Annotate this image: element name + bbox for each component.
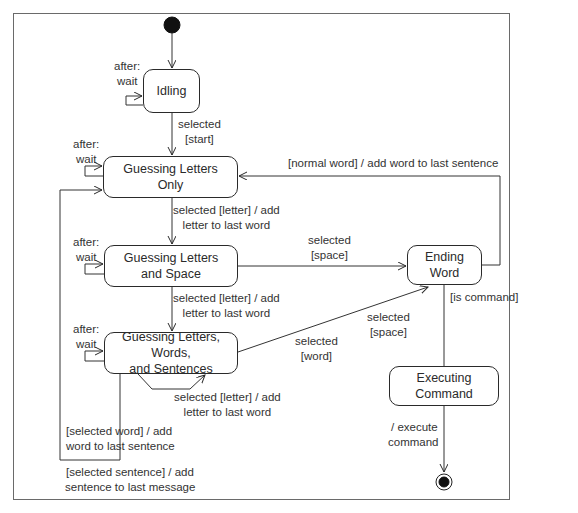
label-glws-to-ew-word: selected [word] [295,334,338,364]
state-guessing-letters-words-sentences: Guessing Letters, Words, and Sentences [104,332,238,374]
label-idle-wait: after: wait [114,59,140,89]
label-line: [space] [367,325,410,340]
final-node [436,474,452,490]
label-glws-to-glo-sentence: [selected sentence] / add sentence to la… [65,465,195,495]
label-line: selected [letter] / add [173,291,280,306]
label-ec-to-final: / execute command [388,420,439,450]
state-ending-word: Ending Word [407,245,482,285]
label-line: command [388,435,439,450]
label-line: selected [178,117,221,132]
state-idling: Idling [143,69,200,113]
label-line: [selected word] / add [66,424,175,439]
label-line: after: [73,322,99,337]
label-glo-wait: after: wait [73,137,99,167]
state-label-line2: and Space [141,266,201,282]
label-line: wait [76,152,99,167]
label-line: letter to last word [174,405,281,420]
state-label: Idling [157,83,187,99]
state-label-line1: Guessing Letters [123,161,218,177]
label-line: [is command] [450,291,518,303]
state-label-line1: Guessing Letters, Words, [107,329,235,361]
label-line: [selected sentence] / add [66,465,195,480]
label-is-command: [is command] [450,290,518,305]
label-line: word to last sentence [66,439,175,454]
label-line: wait [76,337,99,352]
label-line: wait [117,74,140,89]
state-label: Ending Word [410,249,479,281]
label-line: after: [114,59,140,74]
label-idle-to-glo: selected [start] [178,117,221,147]
label-gls-wait: after: wait [73,235,99,265]
state-executing-command: Executing Command [389,366,499,406]
label-glo-to-gls: selected [letter] / add letter to last w… [173,203,280,233]
label-glws-self: selected [letter] / add letter to last w… [174,390,281,420]
label-line: [word] [295,349,338,364]
label-ew-to-glo: [normal word] / add word to last sentenc… [288,156,498,171]
state-label-line2: and Sentences [129,361,212,377]
label-line: letter to last word [173,218,280,233]
label-line: wait [76,250,99,265]
label-glws-to-ew-space: selected [space] [367,310,410,340]
label-line: sentence to last message [65,480,195,495]
label-line: selected [308,233,351,248]
label-line: selected [367,310,410,325]
label-line: after: [73,137,99,152]
label-line: / execute [391,420,439,435]
label-line: selected [letter] / add [174,390,281,405]
state-label: Executing Command [392,370,496,402]
label-line: [start] [178,132,221,147]
initial-node [164,17,180,33]
label-gls-to-ew: selected [space] [308,233,351,263]
label-line: letter to last word [173,306,280,321]
label-line: [space] [308,248,351,263]
label-line: selected [295,334,338,349]
label-glws-to-glo-word: [selected word] / add word to last sente… [66,424,175,454]
label-gls-to-glws: selected [letter] / add letter to last w… [173,291,280,321]
state-guessing-letters-and-space: Guessing Letters and Space [104,245,238,287]
state-label-line1: Guessing Letters [124,250,219,266]
label-line: [normal word] / add word to last sentenc… [288,157,498,169]
label-line: selected [letter] / add [173,203,280,218]
state-label-line2: Only [158,177,184,193]
label-line: after: [73,235,99,250]
state-guessing-letters-only: Guessing Letters Only [103,156,238,198]
label-glws-wait: after: wait [73,322,99,352]
